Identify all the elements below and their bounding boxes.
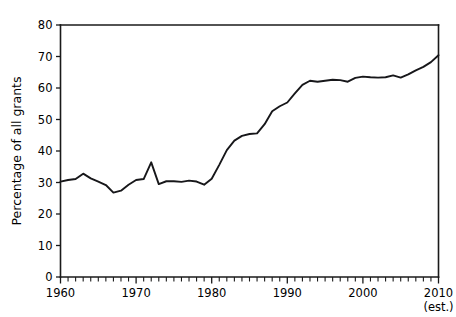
y-axis-tick-label: 50 bbox=[38, 113, 53, 127]
x-axis-tick-label: 1980 bbox=[197, 286, 226, 300]
y-axis-tick-label: 40 bbox=[38, 144, 53, 158]
y-axis-tick-label: 70 bbox=[38, 50, 53, 64]
chart-background bbox=[0, 0, 456, 317]
estimate-note: (est.) bbox=[423, 300, 453, 314]
x-axis-tick-label: 2010 bbox=[424, 286, 453, 300]
x-axis-tick-label: 1990 bbox=[273, 286, 302, 300]
x-axis-tick-label: 1960 bbox=[46, 286, 75, 300]
y-axis-tick-label: 0 bbox=[45, 270, 52, 284]
y-axis-title: Percentage of all grants bbox=[9, 77, 24, 226]
y-axis-tick-label: 20 bbox=[38, 207, 53, 221]
y-axis-tick-label: 30 bbox=[38, 176, 53, 190]
x-axis-tick-label: 2000 bbox=[348, 286, 377, 300]
x-axis-tick-label: 1970 bbox=[121, 286, 150, 300]
y-axis-tick-label: 80 bbox=[38, 18, 53, 32]
line-chart: 01020304050607080 1960197019801990200020… bbox=[0, 0, 456, 317]
y-axis-tick-label: 60 bbox=[38, 81, 53, 95]
chart-container: 01020304050607080 1960197019801990200020… bbox=[0, 0, 456, 317]
y-axis-tick-label: 10 bbox=[38, 239, 53, 253]
